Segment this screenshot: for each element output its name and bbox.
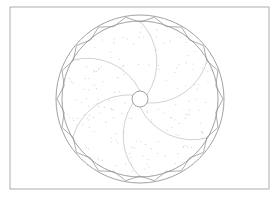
blade-arc xyxy=(147,60,208,103)
center-hub xyxy=(132,91,148,107)
blade-arc xyxy=(140,107,208,140)
blade-arc xyxy=(140,21,157,95)
blade-arc xyxy=(72,58,140,91)
blade-arc xyxy=(123,103,140,177)
diagram-canvas xyxy=(0,0,280,201)
